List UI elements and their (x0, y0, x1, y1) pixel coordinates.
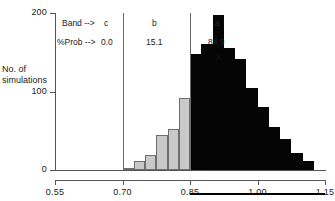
histogram-bar (134, 161, 145, 170)
y-axis-title-line1: No. of (2, 64, 47, 75)
x-marker: X (216, 52, 222, 62)
x-axis-tick-label: 0.55 (33, 187, 77, 197)
histogram-bar (190, 54, 201, 170)
y-axis-tick (50, 92, 55, 93)
x-axis-tick-label: 0.85 (168, 187, 212, 197)
band-divider (123, 13, 124, 170)
prob-value-b: 15.1 (146, 37, 163, 47)
x-axis-rule (55, 180, 326, 181)
histogram-bar (235, 59, 246, 170)
y-axis-tick (50, 13, 55, 14)
histogram-bar (280, 139, 291, 170)
x-axis-line (55, 170, 326, 171)
histogram-bar (258, 107, 269, 170)
plot-area: 01002000.550.700.851.001.15 (0, 0, 335, 201)
prob-row-label: %Prob --> (57, 37, 96, 47)
histogram-bar (291, 153, 302, 170)
prob-value-a: 84.9 (208, 37, 225, 47)
histogram-bar (303, 161, 314, 170)
band-label-a: a (215, 18, 220, 28)
y-axis-title: No. of simulations (2, 64, 47, 86)
band-row-label: Band --> (62, 18, 95, 28)
x-axis-tick-label: 1.00 (236, 187, 280, 197)
x-axis-tick-label: 1.15 (303, 187, 335, 197)
x-axis-tick-label: 0.70 (101, 187, 145, 197)
y-axis-tick-label: 0 (0, 164, 47, 174)
band-divider (190, 13, 191, 170)
band-label-b: b (152, 18, 157, 28)
y-axis-tick-label: 100 (0, 86, 47, 96)
histogram-bar (201, 44, 212, 170)
prob-value-c: 0.0 (101, 37, 113, 47)
histogram-bar (168, 129, 179, 170)
y-axis-tick (50, 170, 55, 171)
histogram-bar (179, 98, 190, 170)
histogram-bar (224, 48, 235, 170)
band-label-c: c (104, 18, 108, 28)
histogram-figure: 01002000.550.700.851.001.15 No. of simul… (0, 0, 335, 201)
histogram-bar (269, 127, 280, 170)
histogram-bar (145, 155, 156, 170)
y-axis-tick-label: 200 (0, 7, 47, 17)
y-axis-line (55, 13, 56, 171)
histogram-bar (246, 88, 257, 170)
y-axis-title-line2: simulations (2, 75, 47, 86)
histogram-bar (156, 135, 167, 170)
band-a-footer-bar (190, 193, 325, 195)
